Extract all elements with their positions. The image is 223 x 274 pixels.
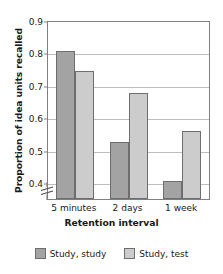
- legend-label: Study, test: [139, 249, 188, 259]
- legend-entry: Study, test: [124, 248, 188, 259]
- y-axis-tick-label: 0.6: [29, 114, 43, 124]
- x-axis-tick-label: 2 days: [113, 203, 143, 213]
- axis-break-icon: [38, 182, 56, 200]
- bar: [75, 71, 94, 199]
- bar: [129, 93, 148, 199]
- y-axis-tick-mark: [44, 54, 48, 55]
- y-axis-title: Proportion of idea units recalled: [13, 21, 24, 201]
- bar: [110, 142, 129, 199]
- y-axis-tick-label: 0.5: [29, 147, 43, 157]
- legend-label: Study, study: [50, 249, 107, 259]
- legend-swatch: [124, 248, 135, 259]
- x-axis-tick-label: 5 minutes: [51, 203, 96, 213]
- y-axis-tick-mark: [44, 22, 48, 23]
- bar-chart-figure: Proportion of idea units recalled 0.40.5…: [0, 0, 223, 274]
- legend-swatch: [35, 248, 46, 259]
- x-axis-tick-label: 1 week: [165, 203, 197, 213]
- plot-area: 0.40.50.60.70.80.9: [47, 21, 210, 200]
- y-axis-tick-label: 0.8: [29, 49, 43, 59]
- legend-entry: Study, study: [35, 248, 107, 259]
- y-axis-tick-mark: [44, 119, 48, 120]
- y-axis-tick-label: 0.9: [29, 17, 43, 27]
- chart-legend: Study, studyStudy, test: [0, 248, 223, 259]
- y-axis-tick-label: 0.7: [29, 82, 43, 92]
- y-axis-tick-mark: [44, 151, 48, 152]
- bar: [182, 131, 201, 199]
- y-axis-tick-mark: [44, 86, 48, 87]
- bar: [163, 181, 182, 199]
- bar: [56, 51, 75, 199]
- x-axis-title: Retention interval: [0, 217, 223, 228]
